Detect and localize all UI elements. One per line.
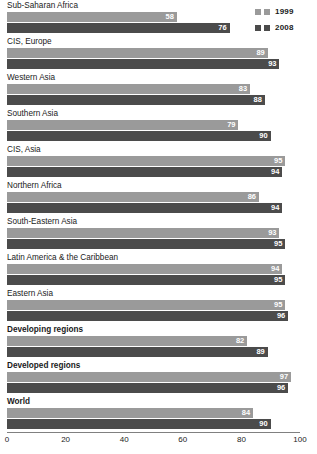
category-label: Sub-Saharan Africa <box>0 0 317 11</box>
bar-row: 90 <box>7 131 317 141</box>
x-axis: 020406080100 <box>0 432 317 454</box>
bar-group: Sub-Saharan Africa5876 <box>0 0 317 33</box>
bar-row: 58 <box>7 12 317 22</box>
chart-plot-area: Sub-Saharan Africa5876CIS, Europe8993Wes… <box>0 0 317 432</box>
bar-row: 79 <box>7 120 317 130</box>
bar-group: Developing regions8289 <box>0 324 317 357</box>
bar-value-label: 93 <box>7 59 279 69</box>
bar-group: Southern Asia7990 <box>0 108 317 141</box>
bar-row: 88 <box>7 95 317 105</box>
bar-value-label: 96 <box>7 311 288 321</box>
axis-tick-label: 0 <box>5 435 9 444</box>
bar-row: 97 <box>7 372 317 382</box>
category-label: Western Asia <box>0 72 317 83</box>
bar-group: CIS, Asia9594 <box>0 144 317 177</box>
category-label: Developed regions <box>0 360 317 371</box>
bar-value-label: 86 <box>7 192 259 202</box>
bar-value-label: 88 <box>7 95 265 105</box>
axis-tick-label: 60 <box>178 435 187 444</box>
bar-value-label: 96 <box>7 383 288 393</box>
bar-value-label: 58 <box>7 12 177 22</box>
category-label: Eastern Asia <box>0 288 317 299</box>
bar-value-label: 94 <box>7 203 282 213</box>
bar-row: 96 <box>7 383 317 393</box>
bar-value-label: 95 <box>7 275 285 285</box>
bar-value-label: 95 <box>7 300 285 310</box>
category-label: Southern Asia <box>0 108 317 119</box>
bar-row: 82 <box>7 336 317 346</box>
bar-group: Eastern Asia9596 <box>0 288 317 321</box>
bar-group: World8490 <box>0 396 317 429</box>
axis-tick-label: 80 <box>237 435 246 444</box>
bar-value-label: 94 <box>7 264 282 274</box>
bar-value-label: 79 <box>7 120 238 130</box>
bar-row: 90 <box>7 419 317 429</box>
category-label: Northern Africa <box>0 180 317 191</box>
bar-row: 93 <box>7 228 317 238</box>
bar-row: 94 <box>7 203 317 213</box>
bar-row: 94 <box>7 167 317 177</box>
category-label: Developing regions <box>0 324 317 335</box>
bar-row: 95 <box>7 156 317 166</box>
bar-value-label: 95 <box>7 156 285 166</box>
bar-row: 89 <box>7 347 317 357</box>
bar-value-label: 94 <box>7 167 282 177</box>
bar-value-label: 83 <box>7 84 250 94</box>
bar-chart: 19992008 Sub-Saharan Africa5876CIS, Euro… <box>0 0 317 454</box>
category-label: South-Eastern Asia <box>0 216 317 227</box>
bar-value-label: 90 <box>7 131 271 141</box>
category-label: World <box>0 396 317 407</box>
bar-value-label: 76 <box>7 23 230 33</box>
axis-tick-label: 20 <box>61 435 70 444</box>
bar-row: 95 <box>7 239 317 249</box>
bar-row: 76 <box>7 23 317 33</box>
bar-value-label: 89 <box>7 347 268 357</box>
bar-group: Latin America & the Caribbean9495 <box>0 252 317 285</box>
bar-value-label: 82 <box>7 336 247 346</box>
bar-group: CIS, Europe8993 <box>0 36 317 69</box>
bar-group: South-Eastern Asia9395 <box>0 216 317 249</box>
bar-value-label: 90 <box>7 419 271 429</box>
category-label: Latin America & the Caribbean <box>0 252 317 263</box>
bar-group: Western Asia8388 <box>0 72 317 105</box>
bar-group: Developed regions9796 <box>0 360 317 393</box>
bar-value-label: 93 <box>7 228 279 238</box>
bar-row: 93 <box>7 59 317 69</box>
bar-row: 84 <box>7 408 317 418</box>
bar-row: 94 <box>7 264 317 274</box>
bar-row: 96 <box>7 311 317 321</box>
bar-value-label: 95 <box>7 239 285 249</box>
bar-row: 95 <box>7 300 317 310</box>
category-label: CIS, Europe <box>0 36 317 47</box>
bar-row: 95 <box>7 275 317 285</box>
category-label: CIS, Asia <box>0 144 317 155</box>
bar-row: 89 <box>7 48 317 58</box>
bar-value-label: 89 <box>7 48 268 58</box>
axis-tick-label: 40 <box>120 435 129 444</box>
x-axis-line <box>7 432 300 433</box>
bar-row: 83 <box>7 84 317 94</box>
axis-tick-label: 100 <box>293 435 306 444</box>
bar-value-label: 97 <box>7 372 291 382</box>
bar-group: Northern Africa8694 <box>0 180 317 213</box>
bar-value-label: 84 <box>7 408 253 418</box>
bar-row: 86 <box>7 192 317 202</box>
